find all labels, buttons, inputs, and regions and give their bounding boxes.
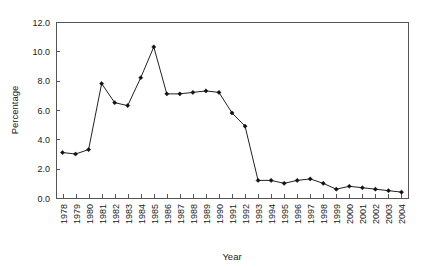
x-tick-label: 1995 [280,204,290,224]
x-tick-label: 1992 [241,204,251,224]
data-point-marker [86,148,90,152]
data-point-marker [386,189,390,193]
data-point-marker [178,92,182,96]
line-chart: 0.02.04.06.08.010.012.019781979198019811… [0,0,425,268]
x-tick-label: 1983 [124,204,134,224]
x-tick-label: 1997 [306,204,316,224]
y-tick-label: 4.0 [37,135,50,145]
data-point-marker [308,177,312,181]
x-tick-label: 2003 [384,204,394,224]
data-point-marker [139,76,143,80]
data-point-marker [373,187,377,191]
x-tick-label: 1996 [293,204,303,224]
x-tick-label: 1989 [202,204,212,224]
data-point-marker [399,190,403,194]
data-point-marker [295,178,299,182]
data-point-marker [334,187,338,191]
data-point-marker [73,152,77,156]
x-axis-title: Year [222,251,241,262]
x-tick-label: 1985 [150,204,160,224]
data-point-marker [321,181,325,185]
series-line [63,47,402,192]
y-tick-label: 10.0 [32,47,50,57]
x-tick-label: 1999 [332,204,342,224]
x-tick-label: 1981 [98,204,108,224]
x-tick-label: 2002 [371,204,381,224]
x-tick-label: 1984 [137,204,147,224]
y-axis-title: Percentage [9,86,20,135]
data-point-marker [282,181,286,185]
y-tick-label: 2.0 [37,164,50,174]
data-point-marker [256,178,260,182]
x-tick-label: 1993 [254,204,264,224]
x-tick-label: 1991 [228,204,238,224]
data-point-marker [204,89,208,93]
x-tick-label: 1998 [319,204,329,224]
x-tick-label: 1980 [85,204,95,224]
x-tick-label: 1988 [189,204,199,224]
x-tick-label: 1994 [267,204,277,224]
x-tick-label: 1987 [176,204,186,224]
y-tick-label: 12.0 [32,18,50,28]
data-point-marker [165,92,169,96]
chart-canvas: 0.02.04.06.08.010.012.019781979198019811… [0,0,425,268]
data-point-marker [60,150,64,154]
data-point-marker [152,45,156,49]
x-tick-label: 2001 [358,204,368,224]
x-tick-label: 1979 [72,204,82,224]
x-tick-label: 1978 [59,204,69,224]
x-tick-label: 2004 [397,204,407,224]
data-point-marker [269,178,273,182]
y-tick-label: 0.0 [37,194,50,204]
data-point-marker [360,186,364,190]
y-tick-label: 8.0 [37,76,50,86]
data-point-marker [126,104,130,108]
x-tick-label: 2000 [345,204,355,224]
x-tick-label: 1990 [215,204,225,224]
y-tick-label: 6.0 [37,106,50,116]
x-tick-label: 1982 [111,204,121,224]
x-tick-label: 1986 [163,204,173,224]
data-point-marker [191,90,195,94]
plot-frame [57,23,409,199]
data-point-marker [347,184,351,188]
